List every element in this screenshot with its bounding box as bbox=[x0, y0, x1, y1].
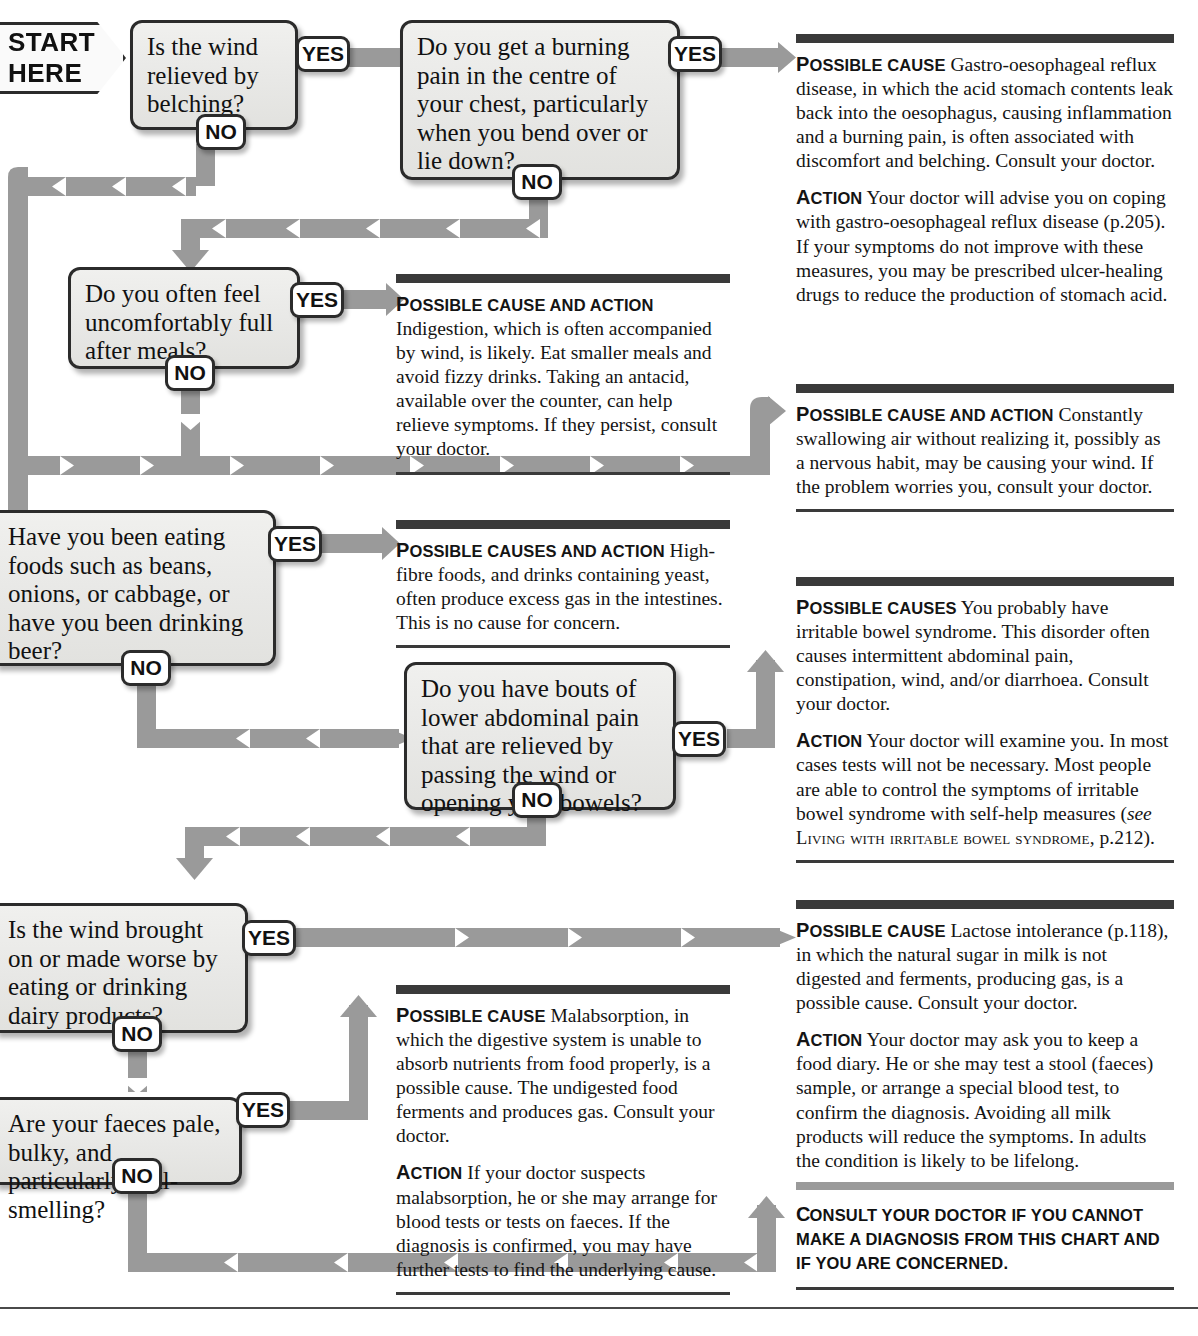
tag-no-q5[interactable]: NO bbox=[512, 782, 562, 818]
panel-rule-top bbox=[796, 1182, 1174, 1190]
panel-paragraph-action: Action Your doctor may ask you to keep a… bbox=[796, 1027, 1174, 1172]
tag-yes-q1[interactable]: YES bbox=[296, 36, 350, 72]
consult-text: Consult your doctor if you cannot make a… bbox=[796, 1200, 1174, 1275]
panel-lead-cause: Possible causes and action bbox=[396, 542, 665, 560]
tag-yes-q4[interactable]: YES bbox=[268, 526, 322, 562]
panel-rule-bottom bbox=[796, 1287, 1174, 1290]
panel-see: see bbox=[1127, 803, 1152, 824]
panel-lead-cause: Possible cause and action bbox=[796, 406, 1054, 424]
question-text-q3: Do you often feel uncomfortably full aft… bbox=[85, 280, 273, 364]
tag-yes-q7[interactable]: YES bbox=[236, 1092, 290, 1128]
tag-yes-q6[interactable]: YES bbox=[242, 920, 296, 956]
arrowhead-lactose bbox=[778, 930, 796, 945]
arrowhead-swallow bbox=[768, 396, 786, 426]
panel-rule-bottom bbox=[396, 1292, 730, 1295]
wire-q6-yes bbox=[296, 928, 780, 947]
tag-label: YES bbox=[274, 532, 316, 556]
panel-lead-action: Action bbox=[796, 1031, 862, 1049]
panel-paragraph-cause: Possible cause Lactose intolerance (p.11… bbox=[796, 918, 1174, 1015]
wire-q2-yes bbox=[718, 48, 780, 67]
panel-body-action-b: , p.212). bbox=[1090, 827, 1155, 848]
tag-label: YES bbox=[296, 288, 338, 312]
wire-q7-no bbox=[128, 1188, 147, 1262]
question-box-q4[interactable]: Have you been eating foods such as beans… bbox=[0, 510, 276, 666]
panel-swallowing-air: Possible cause and action Constantly swa… bbox=[796, 384, 1174, 512]
panel-rule-top bbox=[396, 274, 730, 283]
panel-consult-doctor: Consult your doctor if you cannot make a… bbox=[796, 1182, 1174, 1290]
panel-paragraph-cause: Possible cause Malabsorption, in which t… bbox=[396, 1003, 730, 1148]
panel-lead-action: Action bbox=[796, 189, 862, 207]
panel-rule-bottom bbox=[396, 472, 730, 475]
question-box-q2[interactable]: Do you get a burning pain in the centre … bbox=[400, 20, 680, 180]
panel-lead-action: Action bbox=[396, 1164, 462, 1182]
tag-label: NO bbox=[521, 170, 553, 194]
tag-no-q4[interactable]: NO bbox=[121, 650, 171, 686]
tag-label: NO bbox=[121, 1164, 153, 1188]
panel-rule-top bbox=[396, 985, 730, 994]
panel-lead-action: Action bbox=[796, 732, 862, 750]
panel-lactose: Possible cause Lactose intolerance (p.11… bbox=[796, 900, 1174, 1186]
panel-paragraph-cause: Possible cause and action Indigestion, w… bbox=[396, 292, 730, 462]
panel-rule-bottom bbox=[796, 860, 1174, 863]
panel-rule-top bbox=[796, 900, 1174, 909]
tag-yes-q5[interactable]: YES bbox=[672, 721, 726, 757]
panel-lead-cause: Possible causes bbox=[796, 599, 957, 617]
tag-label: YES bbox=[674, 42, 716, 66]
question-text-q2: Do you get a burning pain in the centre … bbox=[417, 33, 648, 174]
panel-lead-cause: PPossible causeossible cause bbox=[796, 56, 946, 74]
question-box-q3[interactable]: Do you often feel uncomfortably full aft… bbox=[68, 267, 300, 369]
tag-yes-q2[interactable]: YES bbox=[668, 36, 722, 72]
wire-q3-yes bbox=[340, 290, 388, 309]
panel-rule-top bbox=[796, 577, 1174, 586]
tag-label: NO bbox=[521, 788, 553, 812]
tag-label: YES bbox=[302, 42, 344, 66]
tag-no-q6[interactable]: NO bbox=[112, 1016, 162, 1052]
panel-paragraph-cause: Possible causes You probably have irrita… bbox=[796, 595, 1174, 716]
tag-label: YES bbox=[248, 926, 290, 950]
panel-high-fibre: Possible causes and action High-fibre fo… bbox=[396, 520, 730, 648]
arrowhead-q6 bbox=[176, 858, 213, 880]
question-text-q6: Is the wind brought on or made worse by … bbox=[8, 916, 218, 1029]
question-box-q6[interactable]: Is the wind brought on or made worse by … bbox=[0, 903, 248, 1033]
panel-lead-cause: Possible cause bbox=[796, 922, 946, 940]
arrowhead-reflux bbox=[778, 42, 796, 73]
question-text-q4: Have you been eating foods such as beans… bbox=[8, 523, 243, 664]
panel-rule-bottom bbox=[396, 645, 730, 648]
panel-malabsorption: Possible cause Malabsorption, in which t… bbox=[396, 985, 730, 1295]
tag-label: NO bbox=[130, 656, 162, 680]
panel-paragraph-cause: Possible causes and action High-fibre fo… bbox=[396, 538, 730, 635]
panel-reflux: PPossible causeossible cause Gastro-oeso… bbox=[796, 34, 1174, 307]
panel-lead-cause: Possible cause bbox=[396, 1007, 546, 1025]
panel-ibs: Possible causes You probably have irrita… bbox=[796, 577, 1174, 863]
tag-yes-q3[interactable]: YES bbox=[290, 282, 344, 318]
panel-paragraph-action: Action If your doctor suspects malabsorp… bbox=[396, 1160, 730, 1281]
panel-rule-top bbox=[796, 384, 1174, 393]
tag-no-q2[interactable]: NO bbox=[512, 164, 562, 200]
panel-cross-reference: Living with irritable bowel syndrome bbox=[796, 828, 1090, 848]
arrowhead-malabsorption bbox=[340, 995, 377, 1017]
wire-q4-yes bbox=[322, 534, 384, 553]
panel-paragraph-cause: Possible cause and action Constantly swa… bbox=[796, 402, 1174, 499]
panel-rule-bottom bbox=[796, 509, 1174, 512]
panel-indigestion: Possible cause and action Indigestion, w… bbox=[396, 274, 730, 475]
panel-paragraph-cause: PPossible causeossible cause Gastro-oeso… bbox=[796, 52, 1174, 173]
panel-body-cause: Indigestion, which is often accompanied … bbox=[396, 318, 717, 459]
wire-q1-no bbox=[196, 144, 215, 186]
panel-body-cause: Malabsorption, in which the digestive sy… bbox=[396, 1005, 714, 1146]
panel-paragraph-action: Action Your doctor will advise you on co… bbox=[796, 185, 1174, 306]
panel-rule-top bbox=[796, 34, 1174, 43]
tag-no-q1[interactable]: NO bbox=[196, 114, 246, 150]
consult-body: onsult your doctor if you cannot make a … bbox=[796, 1206, 1160, 1272]
panel-rule-top bbox=[396, 520, 730, 529]
question-text-q1: Is the wind relieved by belching? bbox=[147, 33, 259, 117]
panel-paragraph-action: Action Your doctor will examine you. In … bbox=[796, 728, 1174, 849]
tag-label: YES bbox=[242, 1098, 284, 1122]
tag-no-q7[interactable]: NO bbox=[112, 1158, 162, 1194]
tag-label: NO bbox=[174, 361, 206, 385]
arrowhead-ibs bbox=[747, 650, 784, 672]
page-bottom-rule bbox=[0, 1307, 1198, 1309]
flowchart-canvas: START HERE Is the wind relieved by belch… bbox=[0, 0, 1198, 1336]
panel-lead-cause: Possible cause and action bbox=[396, 296, 654, 314]
tag-no-q3[interactable]: NO bbox=[165, 355, 215, 391]
panel-body-action: Your doctor may ask you to keep a food d… bbox=[796, 1029, 1153, 1170]
